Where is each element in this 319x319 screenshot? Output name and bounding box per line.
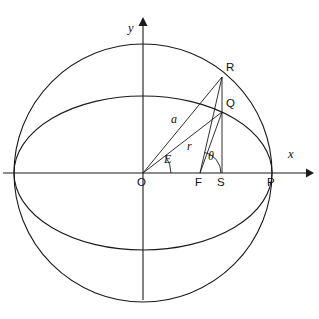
angle-label-theta: θ — [208, 150, 214, 162]
segment-OQ — [143, 112, 222, 173]
x-axis-label: x — [288, 148, 294, 161]
y-axis-arrowhead — [139, 17, 148, 26]
point-label-F: F — [195, 177, 202, 189]
orbit-diagram-figure: y x O F S P R Q a r E θ — [0, 0, 319, 319]
point-label-P: P — [267, 177, 275, 189]
point-label-O: O — [137, 177, 146, 189]
point-label-S: S — [217, 177, 225, 189]
x-axis-arrowhead — [306, 169, 314, 178]
segment-label-r: r — [187, 140, 192, 152]
diagram-canvas — [0, 0, 319, 319]
point-label-Q: Q — [226, 98, 235, 110]
angle-label-E: E — [164, 153, 171, 165]
y-axis-label: y — [128, 22, 134, 35]
point-label-R: R — [226, 62, 234, 74]
segment-label-a: a — [171, 113, 177, 125]
